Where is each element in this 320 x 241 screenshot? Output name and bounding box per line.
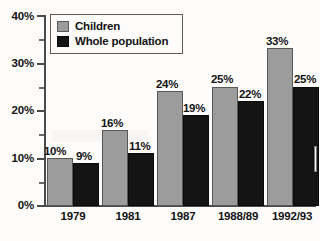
y-axis-label-10: 10% bbox=[0, 152, 34, 164]
y-tick-10 bbox=[37, 158, 44, 160]
legend-label-whole-population: Whole population bbox=[75, 35, 168, 48]
y-tick-20 bbox=[37, 110, 44, 112]
bar-value-children-1992-93: 33% bbox=[266, 35, 288, 47]
y-tick-25 bbox=[39, 87, 44, 89]
y-tick-15 bbox=[39, 134, 44, 136]
bar-value-whole-1987: 19% bbox=[183, 102, 205, 114]
bar-value-children-1979: 10% bbox=[44, 145, 66, 157]
y-axis-label-40: 40% bbox=[0, 10, 34, 22]
y-axis-label-20: 20% bbox=[0, 104, 34, 116]
bar-value-whole-1988-89: 22% bbox=[239, 88, 261, 100]
bar-value-children-1987: 24% bbox=[156, 78, 178, 90]
chart-legend: Children Whole population bbox=[50, 14, 183, 54]
gray-swatch-icon bbox=[57, 21, 69, 32]
legend-item-children[interactable]: Children bbox=[57, 19, 177, 34]
y-axis-label-30: 30% bbox=[0, 57, 34, 69]
page-edge-artifact bbox=[314, 146, 317, 172]
legend-label-children: Children bbox=[75, 20, 120, 33]
bar-value-children-1988-89: 25% bbox=[211, 73, 233, 85]
bar-group-1988-89: 25% 22% bbox=[211, 15, 265, 206]
bar-whole-1979[interactable] bbox=[73, 163, 99, 206]
y-tick-0 bbox=[37, 205, 44, 207]
x-axis-label-1979: 1979 bbox=[46, 210, 100, 222]
black-swatch-icon bbox=[57, 36, 69, 47]
bar-whole-1987[interactable] bbox=[183, 115, 209, 206]
x-axis-label-1987: 1987 bbox=[156, 210, 210, 222]
bar-children-1987[interactable] bbox=[157, 91, 183, 206]
legend-item-whole-population[interactable]: Whole population bbox=[57, 34, 177, 49]
y-axis-label-0: 0% bbox=[0, 199, 34, 211]
bar-whole-1988-89[interactable] bbox=[238, 101, 264, 206]
bar-value-whole-1979: 9% bbox=[76, 150, 92, 162]
y-tick-30 bbox=[37, 63, 44, 65]
bar-chart: 40% 30% 20% 10% 0% 10% 9% 16% 11% 24% 19… bbox=[0, 0, 320, 241]
y-tick-40 bbox=[37, 15, 44, 17]
bar-whole-1981[interactable] bbox=[128, 153, 154, 206]
y-tick-5 bbox=[39, 182, 44, 184]
bar-children-1988-89[interactable] bbox=[212, 87, 238, 206]
x-axis-label-1988-89: 1988/89 bbox=[209, 210, 267, 222]
x-axis-label-1981: 1981 bbox=[101, 210, 155, 222]
y-tick-35 bbox=[39, 39, 44, 41]
bar-children-1981[interactable] bbox=[102, 130, 128, 206]
bar-group-1992-93: 33% 25% bbox=[266, 15, 320, 206]
bar-value-whole-1992-93: 25% bbox=[294, 73, 316, 85]
bar-value-children-1981: 16% bbox=[101, 117, 123, 129]
x-axis-label-1992-93: 1992/93 bbox=[264, 210, 320, 222]
bar-children-1979[interactable] bbox=[47, 158, 73, 206]
bar-children-1992-93[interactable] bbox=[267, 48, 293, 206]
bar-value-whole-1981: 11% bbox=[129, 140, 150, 152]
